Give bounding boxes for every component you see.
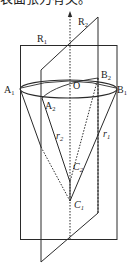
label-c1: C1 bbox=[74, 199, 84, 211]
generator-a1-hidden bbox=[41, 147, 70, 201]
label-b1: B1 bbox=[117, 84, 127, 96]
base-circle-1 bbox=[20, 80, 117, 98]
label-r1-length: r1 bbox=[103, 128, 110, 140]
label-a2: A2 bbox=[45, 100, 55, 112]
diagram-figure: 表面张力有关。 R1 R2 B2 bbox=[0, 0, 129, 263]
axis-arrow-icon bbox=[68, 11, 72, 17]
label-r2: R2 bbox=[78, 16, 88, 28]
label-b2: B2 bbox=[101, 69, 111, 81]
label-r2-length: r2 bbox=[56, 130, 64, 142]
label-c2: C2 bbox=[73, 161, 84, 173]
generator-a1-solid bbox=[21, 90, 42, 147]
generator-b1-r1 bbox=[70, 90, 117, 201]
label-o: O bbox=[73, 80, 80, 91]
label-r1: R1 bbox=[37, 33, 47, 45]
label-a1: A1 bbox=[4, 84, 14, 96]
geometry-diagram: R1 R2 B2 A1 B1 O A2 r2 r1 C2 C1 bbox=[0, 0, 129, 263]
